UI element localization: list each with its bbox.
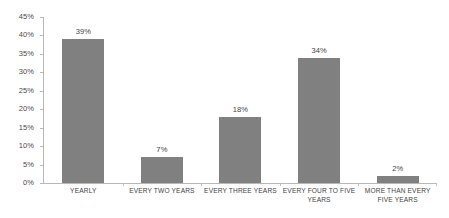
y-axis-tick-label: 30% <box>19 68 34 76</box>
y-axis-tick-mark <box>40 35 43 36</box>
bar-group: 7% <box>123 17 202 183</box>
bar-value-label: 39% <box>76 27 91 36</box>
bar[interactable] <box>298 58 340 183</box>
bar[interactable] <box>377 176 419 183</box>
y-axis-tick-label: 25% <box>19 87 34 95</box>
x-axis-category-label: EVERY TWO YEARS <box>123 186 202 195</box>
y-axis-tick-label: 5% <box>23 161 34 169</box>
y-axis-tick-mark <box>40 128 43 129</box>
y-axis-tick-label: 35% <box>19 50 34 58</box>
bar[interactable] <box>62 39 104 183</box>
x-axis-tick-mark <box>280 183 281 186</box>
y-axis-tick-label: 40% <box>19 31 34 39</box>
y-axis-tick-label: 10% <box>19 142 34 150</box>
y-axis-tick-mark <box>40 183 43 184</box>
bar-chart: 0%5%10%15%20%25%30%35%40%45% 39%7%18%34%… <box>0 0 449 218</box>
y-axis-tick-label: 15% <box>19 124 34 132</box>
bar[interactable] <box>219 117 261 183</box>
x-axis-tick-mark <box>358 183 359 186</box>
x-axis-tick-mark <box>201 183 202 186</box>
y-axis-tick-mark <box>40 146 43 147</box>
bar-value-label: 18% <box>233 105 248 114</box>
plot-area: 39%7%18%34%2% <box>44 17 437 183</box>
x-axis: YEARLYEVERY TWO YEARSEVERY THREE YEARSEV… <box>44 186 437 218</box>
x-axis-line <box>43 183 437 184</box>
y-axis-tick-mark <box>40 72 43 73</box>
bar[interactable] <box>141 157 183 183</box>
bar-group: 18% <box>201 17 280 183</box>
x-axis-category-label: YEARLY <box>44 186 123 195</box>
bar-group: 39% <box>44 17 123 183</box>
bar-value-label: 2% <box>392 164 403 173</box>
y-axis-tick-label: 20% <box>19 105 34 113</box>
x-axis-category-label: MORE THAN EVERY FIVE YEARS <box>358 186 437 204</box>
y-axis-tick-mark <box>40 91 43 92</box>
y-axis: 0%5%10%15%20%25%30%35%40%45% <box>0 0 40 190</box>
y-axis-tick-label: 45% <box>19 13 34 21</box>
y-axis-tick-mark <box>40 109 43 110</box>
x-axis-category-label: EVERY THREE YEARS <box>201 186 280 195</box>
bar-group: 34% <box>280 17 359 183</box>
y-axis-tick-label: 0% <box>23 179 34 187</box>
x-axis-tick-mark <box>436 183 437 186</box>
x-axis-category-label: EVERY FOUR TO FIVE YEARS <box>280 186 359 204</box>
y-axis-tick-mark <box>40 165 43 166</box>
y-axis-tick-mark <box>40 54 43 55</box>
bar-group: 2% <box>358 17 437 183</box>
bar-value-label: 7% <box>156 145 167 154</box>
x-axis-tick-mark <box>123 183 124 186</box>
bar-value-label: 34% <box>311 46 326 55</box>
y-axis-tick-mark <box>40 17 43 18</box>
